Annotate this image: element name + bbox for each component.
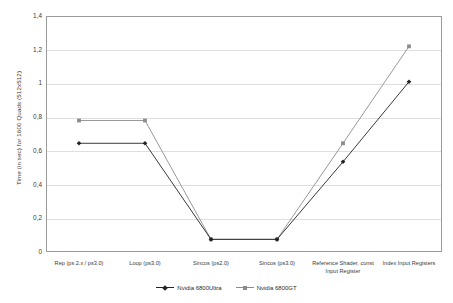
y-axis-tick-label: 0,8 (18, 113, 42, 120)
legend-label: Nvidia 6800Ultra (177, 285, 221, 291)
x-axis-tick-labels: Rep (ps 2.x / ps3.0)Loop (ps3.0)Sincos (… (46, 256, 442, 280)
data-point-marker (407, 44, 411, 48)
y-axis-tick-label: 0,6 (18, 147, 42, 154)
legend-item: Nvidia 6800Ultra (156, 284, 221, 291)
y-axis-tick-label: 1,4 (18, 12, 42, 19)
data-point-marker (143, 119, 147, 123)
data-point-marker (77, 119, 81, 123)
y-axis-tick-label: 1,2 (18, 46, 42, 53)
legend-label: Nvidia 6800GT (257, 285, 297, 291)
x-axis-tick-label: Index Input Registers (363, 260, 453, 268)
y-axis-tick-label: 0,4 (18, 181, 42, 188)
y-axis-tick-label: 1 (18, 79, 42, 86)
square-marker-icon (236, 284, 254, 291)
legend-item: Nvidia 6800GT (236, 284, 297, 291)
chart-legend: Nvidia 6800UltraNvidia 6800GT (0, 284, 453, 291)
y-axis-tick-label: 0 (18, 248, 42, 255)
series-line (79, 82, 409, 240)
y-axis-tick-label: 0,2 (18, 214, 42, 221)
data-point-marker (77, 141, 82, 146)
data-point-marker (341, 141, 345, 145)
diamond-marker-icon (156, 284, 174, 291)
data-series-layer (46, 16, 442, 252)
y-axis-title: Time (in sec) for 1600 Quads (512x512) (12, 8, 26, 248)
chart-container: Time (in sec) for 1600 Quads (512x512) 0… (0, 0, 453, 303)
